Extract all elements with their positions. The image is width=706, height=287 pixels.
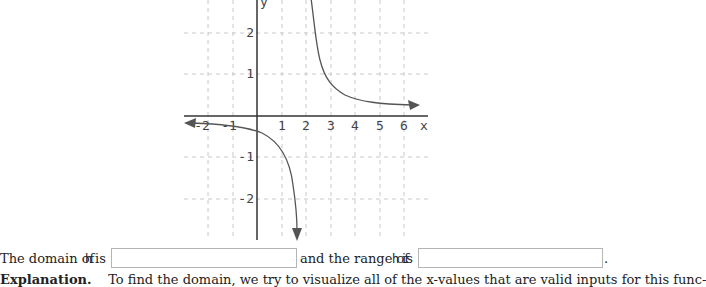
svg-text:5: 5 bbox=[376, 118, 384, 133]
svg-text:1: 1 bbox=[246, 66, 254, 81]
explanation-text: To find the domain, we try to visualize … bbox=[108, 272, 706, 287]
y-tick-labels: 2 1 -1 -2 y bbox=[238, 0, 268, 206]
svg-text:-1: -1 bbox=[238, 149, 254, 164]
function-graph: -2 -1 1 2 3 4 5 6 x 2 1 -1 -2 y bbox=[0, 0, 608, 245]
arrow-down-icon bbox=[292, 228, 302, 241]
range-input[interactable] bbox=[418, 248, 603, 268]
x-axis-label: x bbox=[420, 118, 428, 133]
range-is: is bbox=[402, 248, 413, 270]
arrow-right-icon bbox=[408, 100, 420, 110]
domain-prefix: The domain of bbox=[0, 248, 94, 270]
svg-text:6: 6 bbox=[400, 118, 408, 133]
svg-text:3: 3 bbox=[327, 118, 335, 133]
explanation: Explanation. To find the domain, we try … bbox=[0, 272, 706, 287]
arrow-left-icon bbox=[184, 118, 196, 128]
svg-text:2: 2 bbox=[302, 118, 310, 133]
domain-is: is bbox=[95, 248, 106, 270]
period: . bbox=[604, 248, 608, 270]
svg-text:2: 2 bbox=[246, 25, 254, 40]
function-symbol-range: h bbox=[392, 248, 399, 270]
svg-text:-2: -2 bbox=[194, 118, 210, 133]
domain-input[interactable] bbox=[111, 248, 297, 268]
function-symbol: h bbox=[85, 248, 92, 270]
curve-right-branch bbox=[311, 0, 412, 105]
svg-text:4: 4 bbox=[351, 118, 359, 133]
explanation-heading: Explanation bbox=[0, 272, 87, 287]
heading-period: . bbox=[87, 272, 92, 287]
svg-text:-2: -2 bbox=[238, 191, 254, 206]
svg-text:1: 1 bbox=[278, 118, 286, 133]
y-axis-label: y bbox=[260, 0, 268, 9]
